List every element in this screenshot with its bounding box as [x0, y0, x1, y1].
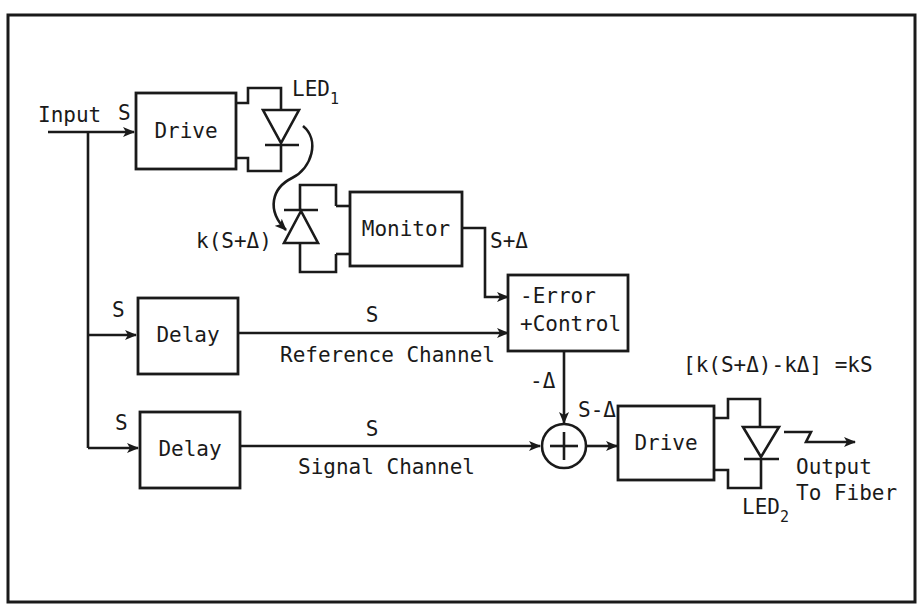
- signal-label-s-delay-ref-in: S: [112, 298, 125, 322]
- error-control-label-line1: -Error: [520, 284, 596, 308]
- photodiode-signal-label: k(S+Δ): [196, 229, 272, 253]
- signal-channel-label: Signal Channel: [298, 455, 475, 479]
- signal-label-s-delay-sig-in: S: [115, 411, 128, 435]
- signal-label-s-sig-out: S: [366, 417, 379, 441]
- signal-label-s-drive1: S: [118, 101, 131, 125]
- compensation-equation: [k(S+Δ)-kΔ] =kS: [683, 353, 873, 377]
- reference-channel-label: Reference Channel: [280, 343, 495, 367]
- output-label-line1: Output: [796, 455, 872, 479]
- output-label-line2: To Fiber: [796, 481, 897, 505]
- drive-block-1-label: Drive: [154, 119, 217, 143]
- drive-block-2-label: Drive: [634, 431, 697, 455]
- monitor-block-label: Monitor: [362, 217, 451, 241]
- delay-block-reference-label: Delay: [156, 323, 219, 347]
- signal-label-s-ref-out: S: [366, 303, 379, 327]
- delay-block-signal-label: Delay: [158, 437, 221, 461]
- led-compensation-block-diagram: Input S Drive LED1 k(S+Δ) Monitor S+Δ -E…: [0, 0, 921, 613]
- error-control-label-line2: +Control: [520, 312, 621, 336]
- monitor-output-label: S+Δ: [490, 229, 528, 253]
- error-output-label: -Δ: [530, 369, 556, 393]
- summer-output-label: S-Δ: [578, 398, 616, 422]
- input-label: Input: [38, 103, 101, 127]
